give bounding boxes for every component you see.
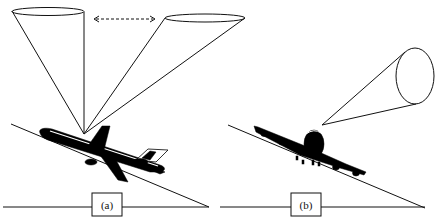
panel-a [3,8,245,217]
aircraft-b-icon [254,126,366,176]
label-a: (a) [101,199,114,212]
cone-2-edge-left [84,18,165,134]
aircraft-a-icon [40,126,168,182]
diagram-canvas: (a) (b) [0,0,443,224]
cone-3-edge-top [322,52,405,125]
cone-2-base [165,14,245,22]
cone-2-edge-right [84,18,245,134]
cone-1-base [12,8,84,16]
panel-b [220,48,434,216]
cone-1-edge-left [12,11,84,134]
cone-3-base [396,48,434,104]
bank-line-b [228,125,425,208]
label-b: (b) [300,199,313,212]
cone-3-edge-bottom [322,104,416,125]
